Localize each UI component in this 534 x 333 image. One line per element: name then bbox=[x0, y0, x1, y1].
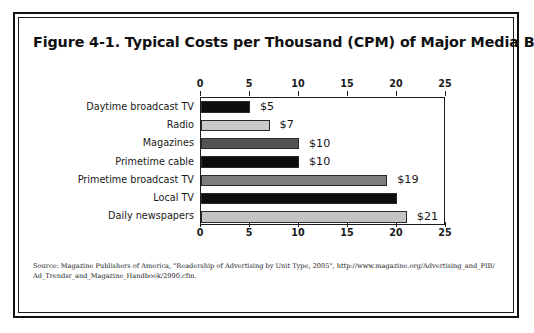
category-label: Primetime cable bbox=[115, 156, 194, 167]
bar-row: $10 bbox=[201, 138, 444, 150]
x-tick-label: 10 bbox=[291, 227, 304, 238]
x-tick-mark bbox=[396, 91, 397, 96]
bar-row: $21 bbox=[201, 211, 444, 223]
category-label: Primetime broadcast TV bbox=[78, 174, 194, 185]
bar-row: $19 bbox=[201, 175, 444, 187]
x-tick-mark bbox=[396, 222, 397, 227]
x-tick-label: 15 bbox=[340, 78, 353, 89]
bar-value-label: $10 bbox=[309, 137, 330, 150]
bar bbox=[201, 156, 299, 168]
category-axis-labels: Daytime broadcast TVRadioMagazinesPrimet… bbox=[33, 97, 194, 225]
figure-frame: Figure 4-1. Typical Costs per Thousand (… bbox=[13, 12, 519, 318]
bar-value-label: $19 bbox=[397, 174, 418, 187]
x-tick-label: 20 bbox=[389, 227, 402, 238]
x-tick-label: 10 bbox=[291, 78, 304, 89]
x-tick-mark bbox=[200, 222, 201, 227]
x-tick-mark bbox=[249, 91, 250, 96]
bar-row: $5 bbox=[201, 101, 444, 113]
x-tick-label: 5 bbox=[246, 227, 253, 238]
category-label: Local TV bbox=[153, 192, 194, 203]
bar bbox=[201, 193, 397, 205]
category-label: Daily newspapers bbox=[108, 210, 194, 221]
bar-value-label: $21 bbox=[417, 210, 438, 223]
bar-row: $10 bbox=[201, 156, 444, 168]
x-axis-bottom: 0510152025 bbox=[200, 227, 445, 243]
x-tick-mark bbox=[347, 91, 348, 96]
bar bbox=[201, 120, 270, 132]
source-note: Source: Magazine Publishers of America, … bbox=[33, 261, 495, 282]
bar-value-label: $5 bbox=[260, 100, 274, 113]
bar bbox=[201, 211, 407, 223]
x-tick-label: 25 bbox=[438, 227, 451, 238]
x-tick-label: 0 bbox=[197, 78, 204, 89]
x-tick-mark bbox=[347, 222, 348, 227]
source-line-2: Ad_Trendsr_and_Magazine_Handbook/2990.cf… bbox=[33, 271, 495, 281]
bar-row bbox=[201, 193, 444, 205]
x-tick-mark bbox=[249, 222, 250, 227]
x-tick-mark bbox=[200, 91, 201, 96]
source-line-1: Source: Magazine Publishers of America, … bbox=[33, 261, 495, 271]
category-label: Magazines bbox=[143, 137, 194, 148]
x-tick-mark bbox=[298, 222, 299, 227]
bar-value-label: $10 bbox=[309, 155, 330, 168]
x-tick-label: 25 bbox=[438, 78, 451, 89]
x-tick-mark bbox=[445, 222, 446, 227]
x-axis-top: 0510152025 bbox=[200, 78, 445, 94]
plot-area: $5$7$10$10$19$21 bbox=[200, 97, 445, 225]
x-tick-label: 0 bbox=[197, 227, 204, 238]
category-label: Radio bbox=[167, 119, 194, 130]
bar-row: $7 bbox=[201, 120, 444, 132]
x-tick-label: 15 bbox=[340, 227, 353, 238]
x-tick-label: 5 bbox=[246, 78, 253, 89]
figure-title: Figure 4-1. Typical Costs per Thousand (… bbox=[33, 34, 503, 50]
bar bbox=[201, 138, 299, 150]
bar-value-label: $7 bbox=[280, 119, 294, 132]
bar-chart: 0510152025 Daytime broadcast TVRadioMaga… bbox=[33, 72, 501, 252]
bar bbox=[201, 101, 250, 113]
x-tick-mark bbox=[298, 91, 299, 96]
bar bbox=[201, 175, 387, 187]
x-tick-label: 20 bbox=[389, 78, 402, 89]
category-label: Daytime broadcast TV bbox=[86, 101, 194, 112]
x-tick-mark bbox=[445, 91, 446, 96]
